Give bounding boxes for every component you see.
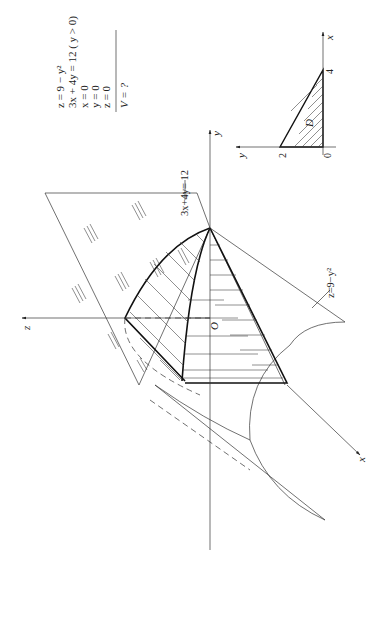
domain-diagram: x y 4 2 0 D	[235, 32, 336, 159]
axis-x-3d	[287, 385, 360, 455]
hidden-diagonal	[150, 400, 250, 470]
given-conditions: z = 9 − y² 3x + 4y = 12 ( y > 0) x = 0 y…	[54, 16, 130, 112]
axis-y-3d-label: y	[210, 131, 222, 137]
region-d-label: D	[303, 119, 315, 128]
solid-top-curve	[125, 228, 210, 381]
solid-base-edge	[185, 228, 287, 383]
solid-diagram: y z x O 3x+4y= 12 z=9−y²	[20, 130, 367, 550]
axis-y-2d-label: y	[235, 153, 247, 159]
region-d-hatching	[280, 70, 323, 147]
solid-hatching	[130, 234, 283, 381]
axis-z-3d-label: z	[20, 325, 32, 331]
diagram-figure: z = 9 − y² 3x + 4y = 12 ( y > 0) x = 0 y…	[0, 0, 385, 636]
tick-x-4: 4	[324, 69, 335, 74]
plane-3x-4y-12	[45, 193, 210, 385]
axis-x-3d-label: x	[355, 457, 367, 463]
axis-x-2d-label: x	[323, 35, 335, 41]
equation-z0: z = 0	[100, 85, 112, 108]
plane-label: 3x+4y= 12	[179, 170, 190, 216]
tick-y-2: 2	[277, 153, 288, 158]
solid-inner-curve	[182, 228, 210, 381]
surface-label: z=9−y²	[325, 268, 336, 298]
plane-hatch-marks	[72, 201, 189, 372]
equation-surface: z = 9 − y²	[54, 65, 66, 108]
origin-label: O	[208, 322, 220, 330]
question-volume: V = ?	[118, 83, 130, 108]
tick-origin-0: 0	[322, 153, 333, 158]
